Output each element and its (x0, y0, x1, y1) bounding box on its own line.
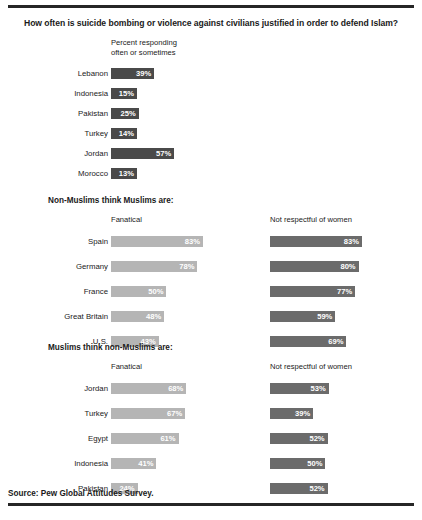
row-label: France (0, 286, 108, 298)
bar-value-label: 48% (146, 311, 161, 322)
bar-value-label: 41% (138, 458, 153, 469)
bar-value-label: 59% (317, 311, 332, 322)
bar-not-respectful-jordan: 53% (270, 383, 329, 394)
bar-not-respectful-spain: 83% (270, 236, 362, 247)
bar-jordan: 57% (111, 148, 174, 159)
bar-fanatical-turkey: 67% (111, 408, 185, 419)
bar-value-label: 67% (167, 408, 182, 419)
row-label: Indonesia (0, 458, 108, 470)
chart-row: Lebanon39% (0, 68, 422, 80)
bottom-rule (8, 503, 414, 506)
chart-row: Pakistan25% (0, 108, 422, 120)
chart-row: Jordan68%53% (0, 383, 422, 395)
chart-row: Egypt61%52% (0, 433, 422, 445)
bar-value-label: 80% (340, 261, 355, 272)
section3-column-header-left: Fanatical (111, 362, 142, 372)
bar-not-respectful-france: 77% (270, 286, 355, 297)
row-label: Egypt (0, 433, 108, 445)
bar-value-label: 14% (119, 128, 134, 139)
bar-value-label: 78% (179, 261, 194, 272)
page-title: How often is suicide bombing or violence… (0, 18, 422, 28)
bar-fanatical-germany: 78% (111, 261, 197, 272)
bar-not-respectful-pakistan: 52% (270, 483, 328, 494)
bar-value-label: 57% (156, 148, 171, 159)
bar-not-respectful-great-britain: 59% (270, 311, 335, 322)
bar-fanatical-jordan: 68% (111, 383, 186, 394)
row-label: Jordan (0, 148, 108, 160)
row-label: Jordan (0, 383, 108, 395)
source-note: Source: Pew Global Attitudes Survey. (8, 489, 154, 498)
bar-value-label: 77% (337, 286, 352, 297)
bar-not-respectful-turkey: 39% (270, 408, 313, 419)
bar-value-label: 69% (328, 336, 343, 347)
section2-column-header-left: Fanatical (111, 215, 142, 225)
bar-indonesia: 15% (111, 88, 137, 99)
bar-not-respectful-egypt: 52% (270, 433, 328, 444)
bar-fanatical-france: 50% (111, 286, 166, 297)
bar-value-label: 52% (309, 483, 324, 494)
bar-fanatical-egypt: 61% (111, 433, 179, 444)
row-label: Great Britain (0, 311, 108, 323)
section3-column-header-right: Not respectful of women (270, 362, 352, 372)
bar-value-label: 39% (295, 408, 310, 419)
bar-value-label: 83% (185, 236, 200, 247)
bar-value-label: 50% (307, 458, 322, 469)
bar-value-label: 25% (120, 108, 135, 119)
row-label: Lebanon (0, 68, 108, 80)
row-label: Turkey (0, 408, 108, 420)
chart-row: Spain83%83% (0, 236, 422, 248)
row-label: Turkey (0, 128, 108, 140)
bar-fanatical-spain: 83% (111, 236, 203, 247)
bar-value-label: 52% (309, 433, 324, 444)
bar-lebanon: 39% (111, 68, 154, 79)
bar-value-label: 61% (160, 433, 175, 444)
section3-heading: Muslims think non-Muslims are: (48, 343, 173, 352)
bar-pakistan: 25% (111, 108, 139, 119)
bar-fanatical-indonesia: 41% (111, 458, 156, 469)
bar-value-label: 50% (148, 286, 163, 297)
bar-value-label: 68% (168, 383, 183, 394)
row-label: Germany (0, 261, 108, 273)
bar-morocco: 13% (111, 168, 137, 179)
chart-row: Morocco13% (0, 168, 422, 180)
chart-row: Great Britain48%59% (0, 311, 422, 323)
bar-not-respectful-indonesia: 50% (270, 458, 325, 469)
row-label: Morocco (0, 168, 108, 180)
section2-column-header-right: Not respectful of women (270, 215, 352, 225)
chart-row: Jordan57% (0, 148, 422, 160)
chart-row: Germany78%80% (0, 261, 422, 273)
bar-value-label: 53% (311, 383, 326, 394)
top-rule (8, 5, 414, 8)
chart-row: France50%77% (0, 286, 422, 298)
chart-row: Turkey67%39% (0, 408, 422, 420)
bar-not-respectful-germany: 80% (270, 261, 359, 272)
chart-page: How often is suicide bombing or violence… (0, 0, 422, 520)
chart-row: Turkey14% (0, 128, 422, 140)
bar-value-label: 39% (136, 68, 151, 79)
row-label: Indonesia (0, 88, 108, 100)
section1-column-header: Percent responding often or sometimes (111, 38, 177, 57)
bar-value-label: 15% (119, 88, 134, 99)
chart-row: Indonesia15% (0, 88, 422, 100)
row-label: Spain (0, 236, 108, 248)
bar-not-respectful-u-s-: 69% (270, 336, 346, 347)
bar-turkey: 14% (111, 128, 137, 139)
row-label: Pakistan (0, 108, 108, 120)
chart-row: Indonesia41%50% (0, 458, 422, 470)
bar-fanatical-great-britain: 48% (111, 311, 164, 322)
bar-value-label: 83% (344, 236, 359, 247)
bar-value-label: 13% (119, 168, 134, 179)
section2-heading: Non-Muslims think Muslims are: (48, 196, 174, 205)
